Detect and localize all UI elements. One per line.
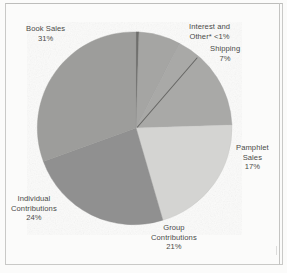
cut-off-caption — [34, 266, 256, 272]
pie-label-shipping: Shipping 7% — [210, 44, 240, 63]
pie-label-group-contributions-name: Group — [163, 223, 185, 232]
pie-label-interest-and-other: Interest and Other* <1% — [189, 22, 230, 41]
pie-label-book-sales-value: 31% — [26, 34, 65, 44]
scan-corner-mark — [276, 246, 282, 255]
pie-chart: Book Sales 31% Interest and Other* <1% S… — [0, 0, 287, 273]
pie-label-individual-contributions-value: 24% — [11, 213, 57, 223]
pie-label-individual-contributions-name2: Contributions — [11, 204, 57, 214]
pie-label-individual-contributions: Individual Contributions 24% — [11, 194, 57, 223]
pie-label-pamphlet-sales-name2: Sales — [236, 153, 269, 163]
pie-label-pamphlet-sales-name: Pamphlet — [236, 143, 269, 152]
pie-label-group-contributions: Group Contributions 21% — [151, 223, 197, 252]
pie-label-interest-and-other-value: Other* <1% — [189, 32, 230, 42]
pie-label-group-contributions-value: 21% — [151, 242, 197, 252]
pie-label-book-sales: Book Sales 31% — [26, 24, 65, 43]
chart-page: Book Sales 31% Interest and Other* <1% S… — [0, 0, 287, 273]
pie-label-group-contributions-name2: Contributions — [151, 233, 197, 243]
pie-label-book-sales-name: Book Sales — [26, 24, 65, 33]
pie-label-individual-contributions-name: Individual — [17, 194, 50, 203]
pie-label-shipping-name: Shipping — [210, 44, 240, 53]
pie-label-pamphlet-sales-value: 17% — [236, 162, 269, 172]
pie-label-pamphlet-sales: Pamphlet Sales 17% — [236, 143, 269, 172]
pie-label-shipping-value: 7% — [210, 54, 240, 64]
pie-label-interest-and-other-name: Interest and — [189, 22, 230, 31]
